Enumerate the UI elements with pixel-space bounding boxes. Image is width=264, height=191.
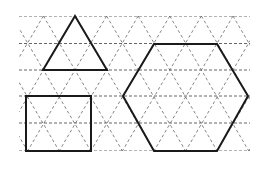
grid-diagonal-line <box>249 16 264 151</box>
rectangle-shape <box>26 96 91 151</box>
grid-diagonal-line <box>0 16 12 151</box>
grid-diagonal-line <box>170 16 249 151</box>
grid-diagonal-line <box>138 16 217 151</box>
grid-diagonal-line <box>201 16 264 151</box>
grid-diagonal-line <box>233 16 264 151</box>
grid-diagonal-line <box>0 16 43 151</box>
grid-diagonal-line <box>59 16 138 151</box>
shapes <box>26 16 248 151</box>
grid-diagonal-line <box>107 16 186 151</box>
triangle-shape <box>43 16 107 70</box>
triangle-grid-diagram <box>0 0 264 191</box>
grid-diagonal-line <box>154 16 233 151</box>
grid-diagonal-line <box>186 16 264 151</box>
dashed-triangular-grid <box>0 16 264 151</box>
grid-diagonal-line <box>12 16 91 151</box>
grid-diagonal-line <box>122 16 201 151</box>
grid-diagonal-line <box>28 16 107 151</box>
grid-diagonal-line <box>0 16 59 151</box>
grid-diagonal-line <box>43 16 122 151</box>
